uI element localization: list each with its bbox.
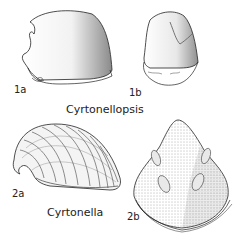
plate-illustrations (0, 0, 241, 238)
figure-label-1a: 1a (14, 85, 27, 95)
figure-2a-shell (13, 124, 120, 190)
figure-label-1b: 1b (129, 88, 142, 98)
figure-1b-shell (143, 12, 198, 85)
figure-label-2a: 2a (12, 189, 25, 199)
figure-label-2b: 2b (127, 212, 140, 222)
figure-1a-shell (22, 11, 112, 84)
genus-name-cyrtonellopsis: Cyrtonellopsis (66, 104, 144, 115)
fossil-plate: 1a 1b Cyrtonellopsis 2a Cyrtonella 2b (0, 0, 241, 238)
figure-2b-shell (134, 120, 232, 232)
genus-name-cyrtonella: Cyrtonella (47, 207, 103, 218)
